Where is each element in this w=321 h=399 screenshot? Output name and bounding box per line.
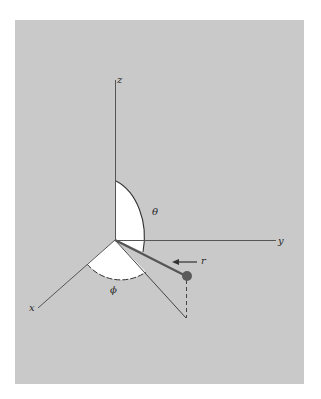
theta-angle-sector xyxy=(116,181,144,252)
spherical-coordinates-diagram: z y x θ ϕ r xyxy=(0,0,321,399)
phi-label: ϕ xyxy=(110,284,117,295)
y-axis-label: y xyxy=(277,235,284,246)
z-axis-label: z xyxy=(116,74,123,85)
x-axis-label: x xyxy=(29,302,35,313)
point-marker xyxy=(182,271,192,281)
r-arrow-head-icon xyxy=(172,259,179,265)
theta-label: θ xyxy=(152,206,158,217)
r-label: r xyxy=(201,255,207,266)
